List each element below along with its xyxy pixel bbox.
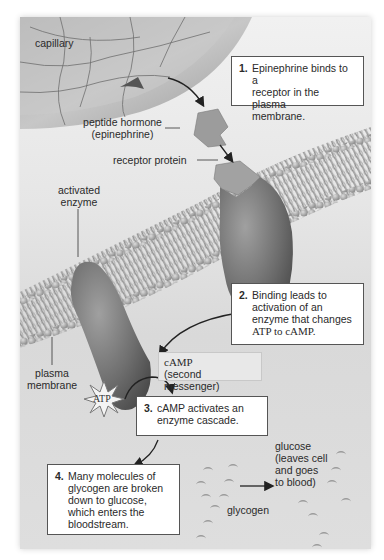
step-1-line: membrane. xyxy=(252,110,355,122)
label-plasma-membrane-line2: membrane xyxy=(26,379,78,391)
step-3-number: 3. xyxy=(144,402,153,414)
step-3-line: cAMP activates an xyxy=(157,402,259,414)
label-activated-enzyme-line2: enzyme xyxy=(52,196,106,208)
label-glycogen: glycogen xyxy=(227,504,269,516)
label-glucose: glucose (leaves cell and goes to blood) xyxy=(275,440,328,488)
label-peptide-hormone-line2: (epinephrine) xyxy=(75,128,170,140)
label-activated-enzyme-line1: activated xyxy=(52,184,106,196)
label-plasma-membrane-line1: plasma xyxy=(26,367,78,379)
label-plasma-membrane: plasma membrane xyxy=(26,367,78,391)
step-2-line: enzyme that changes xyxy=(252,313,355,325)
label-glucose-line4: to blood) xyxy=(275,476,328,488)
step-2-box: 2. Binding leads to activation of an enz… xyxy=(231,283,364,345)
step-4-line: down to glucose, xyxy=(68,494,171,506)
label-camp-line2: (second messenger) xyxy=(164,368,256,392)
arrow-step3-to-step4 xyxy=(135,440,158,465)
step-3-line: enzyme cascade. xyxy=(157,414,259,426)
step-4-line: glycogen are broken xyxy=(68,482,171,494)
label-peptide-hormone: peptide hormone (epinephrine) xyxy=(75,116,170,140)
diagram-frame: capillary peptide hormone (epinephrine) … xyxy=(20,17,371,549)
step-2-line: activation of an xyxy=(252,301,355,313)
label-atp: ATP xyxy=(93,393,111,404)
epinephrine-molecule-1 xyxy=(194,109,228,147)
label-receptor-protein: receptor protein xyxy=(113,154,187,166)
label-glucose-line2: (leaves cell xyxy=(275,452,328,464)
step-1-box: 1. Epinephrine binds to a receptor in th… xyxy=(231,56,364,106)
step-4-box: 4. Many molecules of glycogen are broken… xyxy=(47,464,180,535)
step-3-box: 3. cAMP activates an enzyme cascade. xyxy=(136,396,268,436)
label-camp: cAMP (second messenger) xyxy=(158,352,262,381)
label-capillary: capillary xyxy=(35,37,74,49)
step-4-line: bloodstream. xyxy=(68,518,171,530)
label-camp-line1: cAMP xyxy=(164,356,256,368)
step-4-line: which enters the xyxy=(68,506,171,518)
arrow-receptor-to-enzyme xyxy=(160,313,238,354)
step-1-number: 1. xyxy=(239,62,248,74)
label-glucose-line3: and goes xyxy=(275,464,328,476)
step-4-number: 4. xyxy=(55,470,64,482)
arrow-hormone-to-receptor xyxy=(220,145,232,161)
step-1-line: Epinephrine binds to a xyxy=(252,62,355,86)
step-2-line: Binding leads to xyxy=(252,289,355,301)
glycogen-molecules xyxy=(196,464,238,539)
step-2-number: 2. xyxy=(239,289,248,301)
step-4-line: Many molecules of xyxy=(68,470,171,482)
label-peptide-hormone-line1: peptide hormone xyxy=(75,116,170,128)
step-2-line: ATP to cAMP. xyxy=(252,325,355,337)
label-activated-enzyme: activated enzyme xyxy=(52,184,106,208)
step-1-line: receptor in the plasma xyxy=(252,86,355,110)
label-glucose-line1: glucose xyxy=(275,440,328,452)
